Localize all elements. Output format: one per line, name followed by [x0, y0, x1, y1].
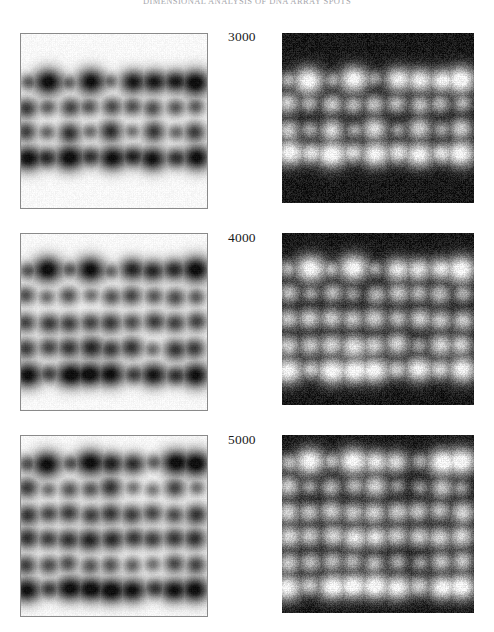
running-header: DIMENSIONAL ANALYSIS OF DNA ARRAY SPOTS — [0, 0, 494, 5]
negative-blot-3000 — [282, 33, 474, 203]
positive-blot-5000 — [20, 435, 208, 617]
positive-blot-4000 — [20, 233, 208, 411]
negative-blot-4000-canvas — [282, 233, 474, 405]
positive-blot-3000-canvas — [21, 34, 207, 208]
negative-blot-3000-canvas — [282, 33, 474, 203]
positive-blot-5000-canvas — [21, 436, 207, 616]
negative-blot-5000 — [282, 435, 474, 613]
figure-row-3000: 3000 — [0, 33, 494, 209]
positive-blot-3000 — [20, 33, 208, 209]
row-label-3000: 3000 — [228, 29, 280, 45]
row-label-5000: 5000 — [228, 432, 280, 448]
negative-blot-4000 — [282, 233, 474, 405]
row-label-4000: 4000 — [228, 230, 280, 246]
figure-row-5000: 5000 — [0, 435, 494, 617]
figure-row-4000: 4000 — [0, 233, 494, 411]
figure-page: DIMENSIONAL ANALYSIS OF DNA ARRAY SPOTS … — [0, 0, 494, 632]
negative-blot-5000-canvas — [282, 435, 474, 613]
positive-blot-4000-canvas — [21, 234, 207, 410]
